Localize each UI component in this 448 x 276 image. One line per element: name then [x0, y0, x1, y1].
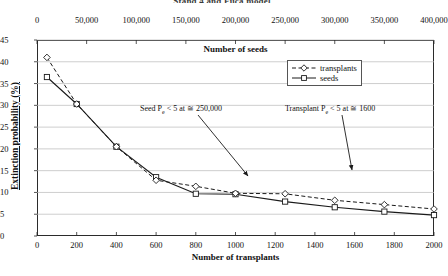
bottom-axis-tick-label: 800	[189, 239, 202, 251]
bottom-axis-tick-label: 600	[150, 239, 163, 251]
top-axis-tick-label: 350,000	[371, 14, 399, 26]
seed-annotation: Seed Pe < 5 at ≅ 250,000	[140, 104, 222, 115]
legend-item-transplants: transplants	[291, 63, 357, 73]
legend-item-seeds: seeds	[291, 73, 357, 83]
bottom-axis-tick-label: 400	[110, 239, 123, 251]
transplant-annotation: Transplant Pe < 5 at ≅ 1600	[285, 104, 375, 115]
top-axis-tick-label: 150,000	[172, 14, 200, 26]
y-axis-tick-label: 45	[0, 35, 33, 45]
bottom-axis-tick-label: 1800	[386, 239, 403, 251]
annotation-subscript: e	[325, 109, 328, 115]
bottom-axis-tick-label: 0	[35, 239, 39, 251]
square-marker-icon	[291, 74, 317, 82]
plot-area	[37, 40, 434, 236]
bottom-axis-tick-labels: 0200400600800100012001400160018002000	[0, 239, 444, 251]
top-axis-tick-label: 100,000	[122, 14, 150, 26]
bottom-axis-tick-label: 1400	[306, 239, 323, 251]
legend-label: transplants	[320, 63, 357, 73]
diamond-marker-icon	[291, 64, 317, 72]
y-axis-tick-label: 40	[0, 57, 33, 67]
top-axis-title: Number of seeds	[37, 44, 434, 54]
bottom-axis-tick-label: 1600	[346, 239, 363, 251]
top-axis-tick-label: 400,000	[420, 14, 448, 26]
top-axis-tick-label: 250,000	[271, 14, 299, 26]
annotation-subscript: e	[162, 109, 165, 115]
legend-label: seeds	[320, 73, 338, 83]
top-axis-tick-labels: 050,000100,000150,000200,000250,000300,0…	[0, 14, 444, 26]
bottom-axis-tick-label: 2000	[426, 239, 443, 251]
figure-title: Stand 4 and Fuca model	[0, 0, 444, 3]
y-axis-title: Extinction probability (%)	[10, 82, 20, 190]
top-axis-tick-label: 50,000	[75, 14, 98, 26]
chart-legend: transplantsseeds	[287, 60, 362, 86]
bottom-axis-tick-label: 1200	[267, 239, 284, 251]
y-axis-tick-label: 5	[0, 209, 33, 219]
bottom-axis-tick-label: 200	[70, 239, 83, 251]
bottom-axis-tick-label: 1000	[227, 239, 244, 251]
top-axis-tick-label: 0	[35, 14, 39, 26]
top-axis-tick-label: 200,000	[222, 14, 250, 26]
top-axis-tick-label: 300,000	[321, 14, 349, 26]
bottom-axis-title: Number of transplants	[37, 252, 434, 262]
